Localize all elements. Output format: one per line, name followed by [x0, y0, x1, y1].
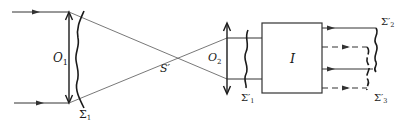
arrow-right-icon: [327, 67, 335, 72]
wavefront-sigma2-prime: [375, 28, 378, 72]
wavefront-sigma1-prime-label: Σ′1: [241, 92, 254, 105]
optical-diagram: O1 Σ1 S′ O2 Σ′1 I: [0, 0, 404, 120]
lens-o1-label: O1: [53, 51, 68, 67]
arrow-right-icon: [342, 45, 350, 50]
lens-o2-label: O2: [208, 51, 222, 66]
converging-rays: [69, 12, 227, 103]
interferometer-label: I: [289, 51, 296, 66]
arrow-right-icon: [36, 101, 44, 106]
focal-point-label: S′: [160, 62, 171, 75]
wavefront-sigma2-prime-label: Σ′2: [381, 16, 394, 29]
wavefront-sigma3-prime-label: Σ′3: [374, 92, 387, 105]
wavefront-sigma1: [76, 11, 84, 108]
lens-o2: [224, 23, 231, 94]
arrow-right-icon: [32, 10, 40, 15]
arrow-right-icon: [342, 86, 350, 91]
arrow-right-icon: [327, 26, 335, 31]
wavefront-sigma1-label: Σ1: [79, 108, 91, 120]
